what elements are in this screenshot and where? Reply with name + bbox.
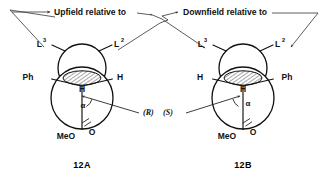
downfield-header-label: Downfield relative to	[183, 7, 267, 17]
label-L3-sup-12B: 3	[204, 37, 207, 43]
label-Ph-12A: Ph	[23, 72, 34, 82]
label-O-12A: O	[89, 127, 96, 137]
label-configuration-12B: (S)	[163, 108, 173, 117]
label-O-12B: O	[250, 127, 257, 137]
label-MeO-12B: MeO	[218, 131, 237, 141]
leader-12A-L2-up	[118, 23, 160, 50]
label-alpha-12A: α	[81, 101, 86, 110]
label-H-center-12B: H	[240, 84, 246, 94]
structure-12A: L 3 L 2 Ph H H α MeO O (R) 12A	[23, 37, 154, 170]
label-L3-12A: L	[37, 39, 42, 49]
upfield-header-label: Upfield relative to	[54, 7, 126, 17]
arrow-right-to-L2-12B	[291, 13, 318, 47]
caption-12B: 12B	[234, 160, 252, 170]
label-configuration-12A: (R)	[143, 108, 154, 117]
structure-12B: L 3 L 2 H Ph H α MeO O (S) 12B	[163, 37, 292, 170]
leader-upfield-to-cross	[137, 13, 152, 15]
caption-12A: 12A	[73, 160, 91, 170]
figure-root: Upfield relative to Downfield relative t…	[0, 0, 328, 184]
label-L2-12B: L	[275, 39, 280, 49]
label-L2-12A: L	[114, 39, 119, 49]
back-bond-L2-12B	[260, 45, 273, 51]
back-bond-L3-12B	[213, 45, 226, 51]
label-alpha-12B: α	[246, 99, 251, 108]
label-H-left-12B: H	[197, 72, 203, 82]
label-L3-sup-12A: 3	[43, 37, 46, 43]
back-bond-L3-12A	[52, 45, 65, 51]
label-H-right-12A: H	[117, 72, 123, 82]
back-bond-L2-12A	[99, 45, 112, 51]
label-L2-sup-12A: 2	[121, 37, 124, 43]
label-MeO-12A: MeO	[57, 131, 76, 141]
newman-projection-diagram: Upfield relative to Downfield relative t…	[0, 0, 328, 184]
arrow-to-downfield-label	[162, 12, 178, 16]
label-Ph-12B: Ph	[282, 72, 293, 82]
leader-left-apex	[10, 10, 55, 17]
label-L3-12B: L	[198, 39, 203, 49]
label-L2-sup-12B: 2	[282, 37, 285, 43]
label-H-center-12A: H	[79, 84, 85, 94]
